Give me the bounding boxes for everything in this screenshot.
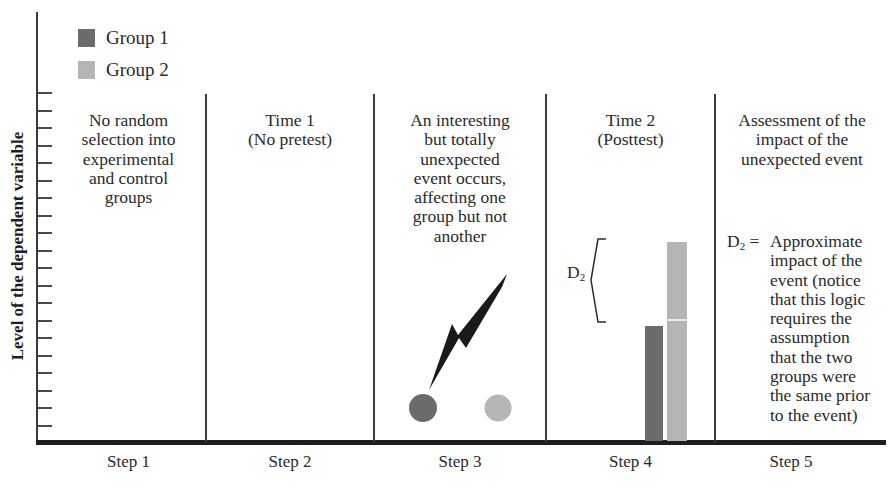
y-axis-tick: [38, 232, 52, 234]
y-axis-tick: [38, 92, 52, 94]
x-axis-line: [36, 440, 886, 445]
step4-heading: Time 2(Posttest): [547, 111, 714, 150]
step1-heading: No randomselection into experimentaland …: [52, 111, 205, 207]
y-axis-tick: [38, 162, 52, 164]
y-axis-tick: [38, 390, 52, 392]
step-label-2: Step 2: [207, 452, 373, 472]
y-axis-tick: [38, 267, 52, 269]
y-axis-tick: [38, 145, 52, 147]
lightning-bolt-icon: [429, 274, 507, 390]
group1-circle: [409, 394, 437, 422]
d2-bracket-label: D2: [567, 263, 585, 287]
step-label-3: Step 3: [375, 452, 545, 472]
y-axis-tick: [38, 425, 52, 427]
step5-heading: Assessment of theimpact of the unexpecte…: [716, 111, 888, 169]
y-axis-tick: [38, 337, 52, 339]
y-axis-tick: [38, 215, 52, 217]
d2-bracket: [591, 239, 606, 322]
legend-swatch-group2: [78, 61, 95, 79]
step-label-5: Step 5: [716, 452, 866, 472]
y-axis-tick: [38, 285, 52, 287]
y-axis-tick: [38, 250, 52, 252]
y-axis-tick: [38, 372, 52, 374]
legend-label-group1: Group 1: [106, 27, 169, 49]
step-label-4: Step 4: [547, 452, 714, 472]
y-axis-tick: [38, 320, 52, 322]
group1-bar: [645, 326, 663, 441]
y-axis-tick: [38, 407, 52, 409]
y-axis-tick: [38, 355, 52, 357]
y-axis-tick: [38, 110, 52, 112]
y-axis-tick: [38, 127, 52, 129]
y-axis-tick: [38, 302, 52, 304]
legend-swatch-group1: [78, 29, 95, 47]
y-axis-tick: [38, 180, 52, 182]
y-axis-label: Level of the dependent variable: [6, 86, 30, 406]
group2-circle: [485, 395, 512, 422]
step-label-1: Step 1: [52, 452, 205, 472]
legend-label-group2: Group 2: [106, 59, 169, 81]
d2-symbol: D2 =: [727, 232, 759, 256]
step3-heading: An interestingbut totally unexpectedeven…: [375, 111, 545, 246]
step3-graphic: [374, 260, 545, 440]
step2-heading: Time 1(No pretest): [207, 111, 373, 150]
y-axis-tick: [38, 197, 52, 199]
y-axis-line: [36, 12, 38, 444]
group2-bar: [667, 242, 687, 441]
d2-definition: Approximateimpact of the event (noticeth…: [770, 232, 888, 425]
